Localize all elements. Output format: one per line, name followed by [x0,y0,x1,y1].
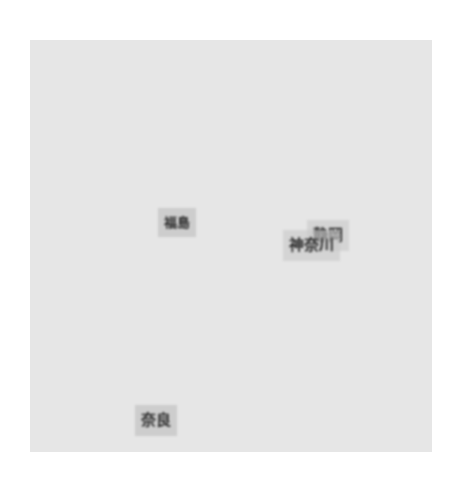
map-canvas[interactable] [30,40,432,452]
map-label-kanagawa[interactable]: 神奈川 [283,230,340,261]
map-label-fukushima[interactable]: 福島 [158,208,196,237]
map-label-nara[interactable]: 奈良 [135,405,177,436]
